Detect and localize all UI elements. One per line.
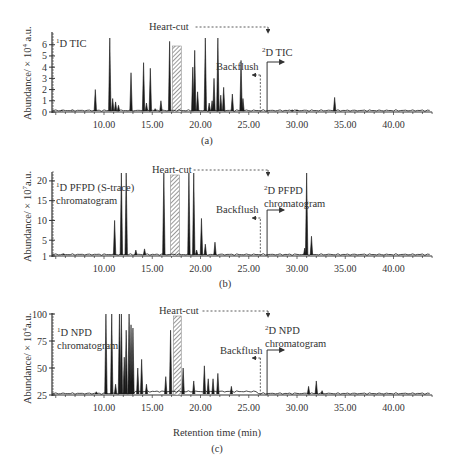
peak: [160, 101, 162, 111]
heart-cut-label-c: Heart-cut: [159, 305, 199, 316]
heart-cut-window: [173, 46, 182, 112]
x-tick-label: 30.00: [286, 263, 309, 274]
peak: [111, 314, 113, 394]
caption-b: (b): [219, 278, 232, 290]
x-tick-label: 25.00: [238, 263, 261, 274]
heart-cut-window: [174, 316, 182, 395]
peak: [188, 173, 190, 255]
peak: [212, 379, 214, 394]
peak: [207, 379, 209, 394]
peak: [169, 330, 171, 394]
peak: [214, 242, 216, 255]
peak: [196, 92, 198, 111]
panel-c: 25507510010.0015.0020.0025.0030.0035.004…: [32, 309, 432, 414]
peak: [204, 244, 206, 255]
peak: [217, 38, 219, 111]
y-tick-label: 1: [42, 95, 47, 106]
y-tick-label: 1: [42, 251, 47, 262]
peak: [109, 38, 111, 111]
panel-a: 012345610.0015.0020.0025.0030.0035.0040.…: [42, 27, 432, 130]
peak: [307, 386, 309, 394]
peak: [137, 368, 139, 394]
peak: [193, 381, 195, 394]
second-dim-label-b-line2: chromatogram: [264, 198, 325, 209]
trace-label-a: 1D TIC: [56, 37, 86, 49]
second-dim-label-b: 2D PFPD: [264, 184, 303, 196]
y-tick-label: 4: [42, 62, 47, 73]
caption-a: (a): [201, 135, 213, 147]
peak: [120, 314, 122, 394]
second-dim-label-c: 2D NPD: [265, 324, 300, 336]
xlabel-c: Retention time (min): [173, 427, 262, 439]
peak: [217, 373, 219, 394]
peak: [145, 384, 147, 394]
peak: [114, 384, 116, 394]
x-tick-label: 30.00: [286, 402, 309, 413]
trace-label-c-line2: chromatogram: [57, 340, 118, 351]
x-tick-label: 35.00: [334, 119, 357, 130]
peak: [315, 381, 317, 394]
peak: [203, 366, 205, 394]
x-tick-label: 30.00: [286, 119, 309, 130]
peak: [143, 249, 145, 255]
peak: [231, 94, 233, 111]
heart-cut-label-b: Heart-cut: [152, 164, 192, 175]
x-tick-label: 20.00: [189, 119, 212, 130]
x-tick-label: 10.00: [93, 402, 116, 413]
peak: [230, 386, 232, 394]
peak: [140, 359, 142, 394]
peak: [220, 95, 222, 111]
peak: [305, 173, 307, 255]
y-tick-label: 15: [37, 195, 47, 206]
x-tick-label: 40.00: [382, 119, 405, 130]
peak: [291, 110, 293, 111]
peak: [154, 109, 156, 111]
x-tick-label: 10.00: [93, 119, 116, 130]
backflush-label-c: Backflush: [220, 345, 263, 356]
trace-label-c: 1D NPD: [57, 326, 92, 338]
peak: [94, 90, 96, 111]
peak: [168, 41, 170, 111]
y-tick-label: 10: [37, 215, 47, 226]
peak: [321, 391, 323, 394]
ylabel-a: Abundance/ × 104 a.u.: [21, 26, 33, 120]
peak: [135, 250, 137, 255]
x-tick-label: 40.00: [382, 263, 405, 274]
y-tick-label: 2: [42, 84, 47, 95]
x-tick-label: 10.00: [93, 263, 116, 274]
y-tick-label: 5: [42, 50, 47, 61]
peak: [149, 68, 151, 111]
peak: [163, 173, 165, 255]
y-tick-label: 0: [42, 107, 47, 118]
second-dim-label-a: 2D TIC: [262, 46, 292, 58]
peak: [105, 314, 107, 394]
baseline-trace: [52, 391, 430, 395]
y-tick-label: 6: [42, 39, 47, 50]
x-tick-label: 35.00: [334, 402, 357, 413]
trace-label-b-line2: chromatogram: [56, 195, 117, 206]
peak: [117, 105, 119, 111]
peak: [213, 78, 215, 111]
x-tick-label: 25.00: [238, 402, 261, 413]
y-tick-label: 50: [37, 363, 47, 374]
x-tick-label: 20.00: [189, 402, 212, 413]
chromatogram-figure: 012345610.0015.0020.0025.0030.0035.0040.…: [0, 0, 451, 458]
backflush-label-a: Backflush: [216, 61, 259, 72]
peak: [204, 38, 206, 111]
peak: [165, 377, 167, 394]
backflush-label-b: Backflush: [216, 204, 259, 215]
y-tick-label: 75: [37, 336, 47, 347]
peak: [333, 97, 335, 111]
x-tick-label: 15.00: [141, 119, 164, 130]
peak: [200, 218, 202, 255]
y-tick-label: 25: [37, 390, 47, 401]
ylabel-c: Abundance/ × 104a.u.: [21, 313, 33, 404]
x-tick-label: 15.00: [141, 263, 164, 274]
second-dim-label-c-line2: chromatogram: [265, 338, 326, 349]
trace-label-main: D TIC: [60, 38, 87, 49]
peak: [142, 63, 144, 111]
peak: [195, 250, 197, 255]
peak: [193, 173, 195, 255]
peak: [113, 220, 115, 255]
x-tick-label: 15.00: [141, 402, 164, 413]
